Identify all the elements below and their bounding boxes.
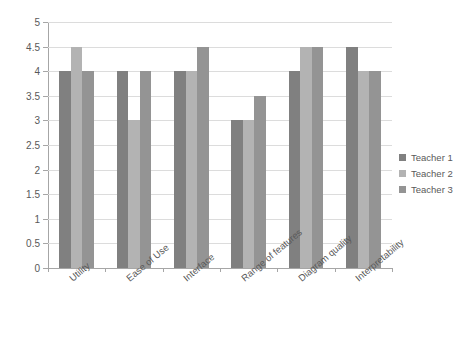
gridline (48, 96, 392, 97)
y-axis-tick-label: 4 (0, 66, 40, 77)
bar (174, 71, 186, 268)
y-axis-tick (43, 47, 48, 48)
x-axis-tick (48, 268, 49, 272)
gridline (48, 120, 392, 121)
gridline (48, 170, 392, 171)
legend-item: Teacher 2 (399, 165, 474, 181)
legend-item: Teacher 1 (399, 149, 474, 165)
y-axis-tick-label: 3.5 (0, 90, 40, 101)
y-axis-tick (43, 71, 48, 72)
y-axis-tick (43, 243, 48, 244)
y-axis-tick-label: 4.5 (0, 41, 40, 52)
y-axis-tick (43, 22, 48, 23)
y-axis-tick-label: 1 (0, 213, 40, 224)
bar (358, 71, 370, 268)
y-axis-tick-label: 3 (0, 115, 40, 126)
bar (186, 71, 198, 268)
gridline (48, 71, 392, 72)
x-axis-tick (163, 268, 164, 272)
gridline (48, 22, 392, 23)
y-axis-tick-label: 0.5 (0, 238, 40, 249)
y-axis-tick (43, 170, 48, 171)
legend-swatch-icon (399, 186, 406, 193)
y-axis-tick (43, 194, 48, 195)
x-axis-tick (277, 268, 278, 272)
y-axis-tick (43, 120, 48, 121)
bar (128, 120, 140, 268)
legend-label: Teacher 2 (411, 168, 453, 179)
bar (197, 47, 209, 268)
bar (117, 71, 129, 268)
legend-swatch-icon (399, 154, 406, 161)
y-axis-tick-label: 0 (0, 263, 40, 274)
legend-label: Teacher 3 (411, 184, 453, 195)
bar (82, 71, 94, 268)
gridline (48, 47, 392, 48)
gridline (48, 194, 392, 195)
y-axis-tick-label: 5 (0, 17, 40, 28)
y-axis-tick-label: 1.5 (0, 189, 40, 200)
x-axis-tick (335, 268, 336, 272)
bar (312, 47, 324, 268)
x-axis-tick (392, 268, 393, 272)
y-axis-tick (43, 96, 48, 97)
gridline (48, 219, 392, 220)
legend-item: Teacher 3 (399, 181, 474, 197)
y-axis-tick-label: 2 (0, 164, 40, 175)
bar (369, 71, 381, 268)
bar (140, 71, 152, 268)
bar (59, 71, 71, 268)
bar (71, 47, 83, 268)
x-axis-tick (220, 268, 221, 272)
chart-legend: Teacher 1Teacher 2Teacher 3 (399, 149, 474, 197)
y-axis-tick (43, 145, 48, 146)
bar (243, 120, 255, 268)
bar (231, 120, 243, 268)
y-axis-tick-label: 2.5 (0, 140, 40, 151)
bar-chart: 00.511.522.533.544.55 UtilityEase of Use… (0, 0, 476, 354)
bar (254, 96, 266, 268)
y-axis-tick (43, 219, 48, 220)
legend-label: Teacher 1 (411, 152, 453, 163)
legend-swatch-icon (399, 170, 406, 177)
x-axis-tick (105, 268, 106, 272)
gridline (48, 145, 392, 146)
